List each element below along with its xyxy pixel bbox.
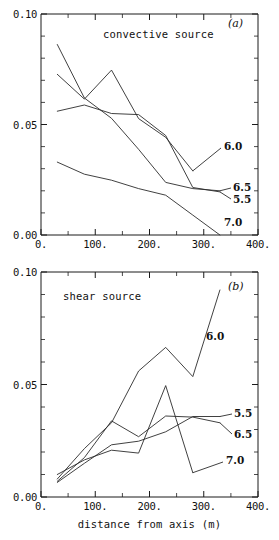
panel-a-xtick-0: 0. xyxy=(35,238,47,250)
panel-a-ytick-bot: 0.00 xyxy=(13,229,37,241)
panel-b-curve-6-0 xyxy=(57,290,220,479)
panel-a-x-ticks xyxy=(41,14,258,235)
panel-b-source-label: shear source xyxy=(63,290,141,302)
panel-a-ytick-mid: 0.05 xyxy=(13,119,37,131)
panel-b-label-5-5: 5.5 xyxy=(234,407,252,419)
figure-container: 0.10 0.05 0.00 0. 100. 200. 300. 400. co… xyxy=(0,0,279,540)
panel-b-tag: (b) xyxy=(228,280,244,293)
panel-b-leader-7-0 xyxy=(193,462,223,473)
panel-a: 0.10 0.05 0.00 0. 100. 200. 300. 400. co… xyxy=(13,8,270,250)
panel-a-leader-5-5 xyxy=(220,192,231,199)
panel-b-label-7-0: 7.0 xyxy=(226,454,244,466)
panel-b-label-6-0: 6.0 xyxy=(206,330,224,342)
panel-a-label-5-5: 5.5 xyxy=(233,193,251,205)
panel-b-label-6-5: 6.5 xyxy=(234,428,252,440)
panel-a-label-7-0: 7.0 xyxy=(224,216,242,228)
panel-b-xtick-400: 400. xyxy=(246,500,270,512)
panel-a-xtick-200: 200. xyxy=(137,238,161,250)
panel-a-label-6-0: 6.0 xyxy=(224,140,242,152)
panel-b-xtick-100: 100. xyxy=(83,500,107,512)
panel-b-xtick-200: 200. xyxy=(137,500,161,512)
panel-b: 0.10 0.05 0.00 0. 100. 200. 300. 400. sh… xyxy=(13,266,270,530)
panel-a-label-6-5: 6.5 xyxy=(233,181,251,193)
panel-b-leader-6-5 xyxy=(220,423,232,434)
x-axis-title: distance from axis (m) xyxy=(78,518,221,530)
panel-b-y-ticks xyxy=(41,272,47,497)
panel-b-curve-5-5 xyxy=(57,417,220,483)
panel-b-y-ticks-right xyxy=(252,272,258,497)
panel-a-xtick-100: 100. xyxy=(83,238,107,250)
panel-a-tag: (a) xyxy=(228,17,243,30)
panel-a-curve-7-0 xyxy=(57,162,220,235)
panel-a-ytick-top: 0.10 xyxy=(13,8,37,20)
panel-a-xtick-300: 300. xyxy=(192,238,216,250)
panel-b-ytick-top: 0.10 xyxy=(13,266,37,278)
panel-a-leader-6-5 xyxy=(220,188,231,191)
panel-a-axes xyxy=(41,14,258,235)
panel-b-ytick-mid: 0.05 xyxy=(13,379,37,391)
panel-a-leader-6-0 xyxy=(193,148,221,171)
panel-b-xtick-300: 300. xyxy=(192,500,216,512)
panel-a-xtick-400: 400. xyxy=(246,238,270,250)
panel-b-xtick-0: 0. xyxy=(35,500,47,512)
panel-b-leader-5-5 xyxy=(220,414,232,417)
panel-a-source-label: convective source xyxy=(103,28,214,40)
panel-a-y-ticks-right xyxy=(252,14,258,235)
panel-b-ytick-bot: 0.00 xyxy=(13,491,37,503)
panel-a-y-ticks xyxy=(41,14,47,235)
panel-b-curve-7-0 xyxy=(57,386,193,475)
figure-svg: 0.10 0.05 0.00 0. 100. 200. 300. 400. co… xyxy=(0,0,279,540)
